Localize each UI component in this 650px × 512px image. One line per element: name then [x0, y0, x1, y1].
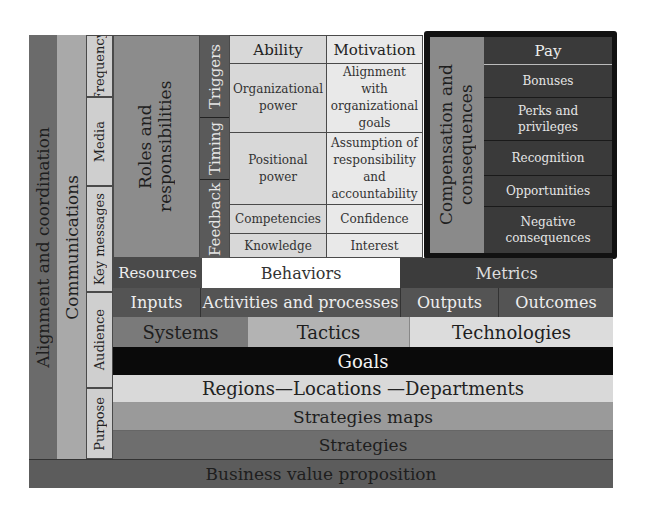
- knowledge-label: Knowledge: [244, 239, 312, 253]
- negative-consequences-label: Negative consequences: [498, 214, 598, 246]
- inputs-cell: Inputs: [113, 288, 201, 317]
- communications-column: Communications: [57, 35, 86, 459]
- business-value-proposition-label: Business value proposition: [205, 464, 436, 484]
- comp-item-bonuses: Bonuses: [484, 65, 612, 98]
- bvp-divider: [29, 459, 613, 460]
- motivation-label: Motivation: [333, 41, 415, 59]
- timing-label: Timing: [206, 122, 224, 175]
- goals-label: Goals: [338, 351, 389, 372]
- comm-item-audience: Audience: [86, 292, 113, 388]
- comm-item-key-messages: Key messages: [86, 186, 113, 292]
- grid-cell-alignment-goals: Alignment with organizational goals: [326, 63, 423, 133]
- feedback-cell: Feedback: [200, 180, 229, 258]
- ability-header: Ability: [229, 35, 327, 64]
- outputs-label: Outputs: [417, 293, 482, 312]
- grid-cell-competencies: Competencies: [229, 204, 327, 234]
- grid-cell-confidence: Confidence: [326, 204, 423, 234]
- technologies-cell: Technologies: [410, 317, 613, 347]
- alignment-coordination-column: Alignment and coordination: [29, 35, 57, 459]
- feedback-label: Feedback: [206, 183, 224, 256]
- assumption-responsibility-label: Assumption of responsibility and account…: [329, 135, 420, 203]
- behaviors-label: Behaviors: [261, 264, 342, 283]
- grid-cell-knowledge: Knowledge: [229, 233, 327, 258]
- strategies-maps-bar: Strategies maps: [113, 403, 613, 431]
- regions-label: Regions—Locations —Departments: [202, 378, 524, 399]
- triggers-cell: Triggers: [200, 35, 229, 118]
- technologies-label: Technologies: [452, 322, 571, 343]
- timing-cell: Timing: [200, 118, 229, 180]
- audience-label: Audience: [92, 309, 107, 370]
- comm-item-media: Media: [86, 97, 113, 186]
- triggers-label: Triggers: [206, 44, 224, 109]
- strategies-maps-label: Strategies maps: [293, 407, 433, 427]
- recognition-label: Recognition: [512, 151, 585, 165]
- goals-bar: Goals: [113, 347, 613, 375]
- opportunities-label: Opportunities: [506, 184, 590, 198]
- business-value-proposition-bar: Business value proposition: [29, 459, 613, 488]
- activities-processes-label: Activities and processes: [203, 293, 399, 312]
- tactics-label: Tactics: [297, 322, 361, 343]
- alignment-coordination-label: Alignment and coordination: [33, 127, 53, 368]
- grid-cell-positional-power: Positional power: [229, 132, 327, 205]
- metrics-label: Metrics: [475, 264, 537, 283]
- behaviors-cell: Behaviors: [202, 259, 400, 287]
- strategies-bar: Strategies: [113, 431, 613, 459]
- comp-item-negative-consequences: Negative consequences: [484, 207, 612, 253]
- ability-label: Ability: [253, 41, 302, 59]
- key-messages-label: Key messages: [92, 193, 107, 285]
- comp-item-pay: Pay: [484, 37, 612, 65]
- tactics-cell: Tactics: [248, 317, 410, 347]
- comm-item-purpose: Purpose: [86, 388, 113, 459]
- comm-item-frequency: Frequency: [86, 35, 113, 97]
- outputs-cell: Outputs: [401, 288, 499, 317]
- interest-label: Interest: [350, 239, 398, 253]
- regions-locations-departments-bar: Regions—Locations —Departments: [113, 375, 613, 403]
- metrics-cell: Metrics: [400, 258, 613, 288]
- comp-item-perks: Perks and privileges: [484, 98, 612, 141]
- resources-cell: Resources: [113, 258, 202, 288]
- comp-item-opportunities: Opportunities: [484, 176, 612, 207]
- purpose-label: Purpose: [92, 397, 107, 451]
- media-label: Media: [92, 121, 107, 162]
- motivation-header: Motivation: [326, 35, 423, 64]
- competencies-label: Competencies: [235, 212, 321, 226]
- bonuses-label: Bonuses: [523, 74, 574, 88]
- strategies-label: Strategies: [319, 435, 408, 455]
- roles-responsibilities-block: Roles and responsibilities: [113, 35, 200, 258]
- outcomes-cell: Outcomes: [499, 288, 613, 317]
- systems-label: Systems: [143, 322, 219, 343]
- communications-label: Communications: [62, 175, 82, 320]
- grid-cell-interest: Interest: [326, 233, 423, 258]
- grid-cell-organizational-power: Organizational power: [229, 63, 327, 133]
- frequency-label: Frequency: [92, 35, 107, 97]
- comp-item-recognition: Recognition: [484, 141, 612, 176]
- roles-responsibilities-label: Roles and responsibilities: [135, 36, 179, 257]
- activities-processes-cell: Activities and processes: [201, 288, 401, 317]
- pay-label: Pay: [535, 42, 562, 60]
- inputs-label: Inputs: [131, 293, 183, 312]
- compensation-label-column: Compensation and consequences: [430, 37, 484, 253]
- organizational-power-label: Organizational power: [233, 81, 323, 115]
- confidence-label: Confidence: [340, 212, 408, 226]
- outcomes-label: Outcomes: [515, 293, 596, 312]
- systems-cell: Systems: [113, 317, 248, 347]
- resources-label: Resources: [118, 264, 197, 282]
- positional-power-label: Positional power: [242, 152, 314, 186]
- compensation-label: Compensation and consequences: [436, 37, 478, 253]
- alignment-goals-label: Alignment with organizational goals: [329, 64, 420, 132]
- grid-cell-assumption-responsibility: Assumption of responsibility and account…: [326, 132, 423, 205]
- perks-label: Perks and privileges: [512, 103, 584, 135]
